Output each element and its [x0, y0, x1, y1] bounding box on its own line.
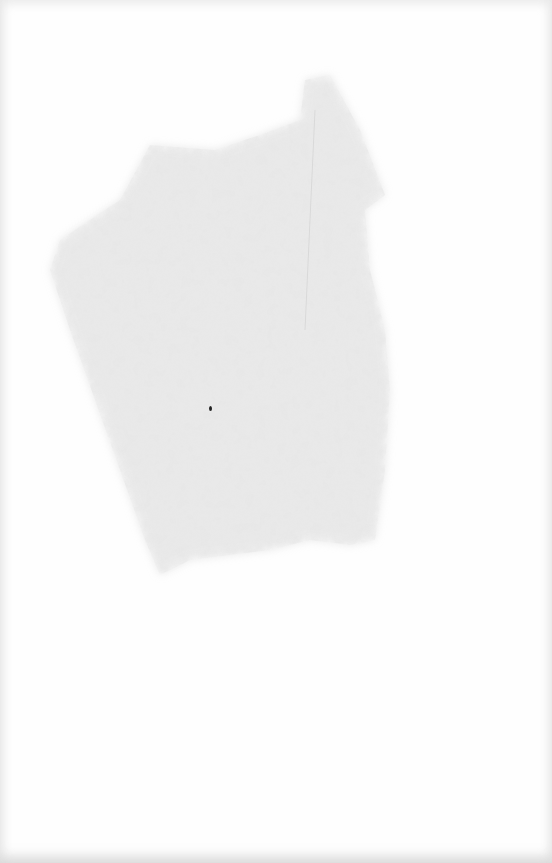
ink-speck: [209, 406, 212, 411]
stain-blot: [0, 0, 552, 863]
scanned-page: [0, 0, 552, 863]
